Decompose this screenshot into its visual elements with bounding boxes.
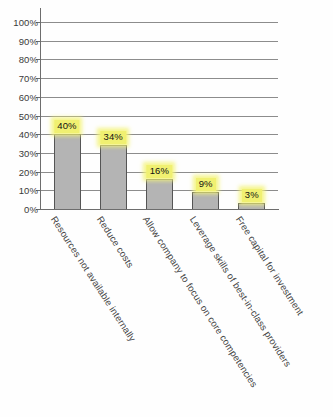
- category-label: Leverage skills of best-in-class provide…: [187, 214, 293, 369]
- bar: [100, 145, 127, 209]
- category-label: Reduce costs: [95, 214, 137, 270]
- y-axis-tick-label: 80%: [0, 54, 38, 65]
- y-axis-tick-label: 40%: [0, 129, 38, 140]
- y-axis-tick-label: 10%: [0, 185, 38, 196]
- y-axis-line: [40, 8, 41, 210]
- y-axis-tick-label: 90%: [0, 35, 38, 46]
- y-axis-tick-label: 70%: [0, 73, 38, 84]
- bar: [54, 134, 81, 209]
- bar-value-label: 40%: [54, 120, 79, 133]
- gridline: [40, 116, 278, 117]
- bar: [192, 192, 219, 209]
- gridline: [40, 78, 278, 79]
- y-axis-tick-label: 50%: [0, 110, 38, 121]
- gridline: [40, 41, 278, 42]
- bar-chart: 0%10%20%30%40%50%60%70%80%90%100% 40%34%…: [0, 0, 333, 417]
- y-axis-tick-label: 100%: [0, 17, 38, 28]
- gridline: [40, 59, 278, 60]
- gridline: [40, 22, 278, 23]
- y-axis-tick-label: 0%: [0, 204, 38, 215]
- y-axis-tick-label: 30%: [0, 147, 38, 158]
- bar-value-label: 34%: [101, 131, 126, 144]
- category-label: Resources not available internally: [49, 214, 138, 343]
- y-axis-tick-label: 60%: [0, 91, 38, 102]
- x-axis-line: [40, 209, 279, 210]
- bar-value-label: 9%: [196, 178, 216, 191]
- bar: [238, 203, 265, 209]
- bar-value-label: 16%: [147, 165, 172, 178]
- bar-value-label: 3%: [242, 189, 262, 202]
- gridline: [40, 97, 278, 98]
- bar: [146, 179, 173, 209]
- y-axis-tick-label: 20%: [0, 166, 38, 177]
